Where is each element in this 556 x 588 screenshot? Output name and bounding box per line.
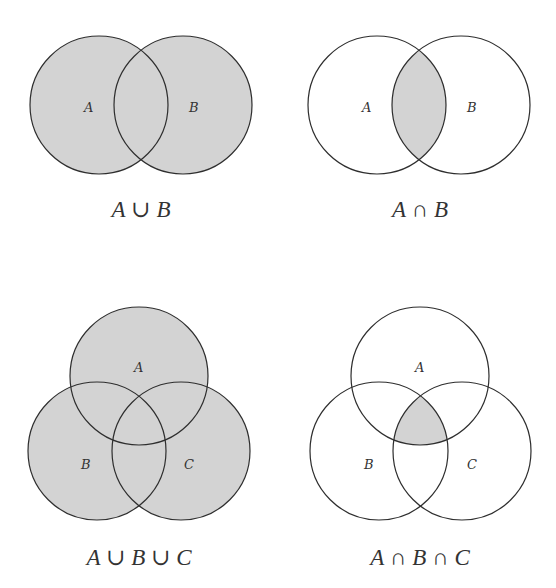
venn-intersection-three-sets: A B C A ∩ B ∩ C (310, 307, 531, 570)
set-a-label: A (83, 100, 93, 115)
caption-union-abc: A ∪ B ∪ C (84, 545, 192, 570)
shaded-region (30, 36, 252, 174)
caption-union-ab: A ∪ B (110, 197, 171, 222)
set-a-label: A (133, 360, 143, 375)
venn-intersection-two-sets: A B A ∩ B (308, 36, 530, 222)
shaded-region (393, 382, 531, 520)
caption-intersection-abc: A ∩ B ∩ C (368, 545, 470, 570)
set-a-label: A (361, 100, 371, 115)
shaded-region (392, 36, 530, 174)
set-c-label: C (467, 457, 477, 472)
venn-diagrams-figure: A B A ∪ B A B A ∩ B A B C A ∪ B ∪ C (0, 0, 556, 588)
set-b-label: B (188, 100, 199, 115)
venn-union-three-sets: A B C A ∪ B ∪ C (28, 307, 250, 570)
set-b-label: B (466, 100, 477, 115)
set-b-label: B (80, 457, 91, 472)
set-a-label: A (414, 360, 424, 375)
shaded-region (28, 307, 250, 520)
set-b-label: B (363, 457, 374, 472)
venn-union-two-sets: A B A ∪ B (30, 36, 252, 222)
set-c-label: C (184, 457, 194, 472)
caption-intersection-ab: A ∩ B (390, 197, 448, 222)
